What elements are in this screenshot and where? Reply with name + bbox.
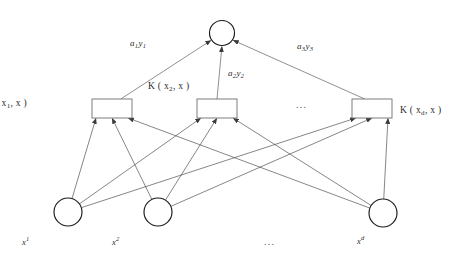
input-node-i3 xyxy=(369,199,397,227)
kernel-box-k2 xyxy=(197,99,237,118)
edge-i3-k1 xyxy=(128,118,369,208)
output-node-circle xyxy=(210,21,235,46)
input-node-group xyxy=(54,198,397,227)
edge-i3-k2 xyxy=(233,118,371,205)
kernel-box-k3 xyxy=(352,99,392,118)
input-node-i2 xyxy=(144,198,172,226)
kernel-layer-ellipsis: ... xyxy=(296,100,307,110)
weight-label-3: a3y3 xyxy=(297,42,313,52)
kernel-network-diagram: K ( x1, x ) K ( x2, x ) K ( xd, x ) ... … xyxy=(0,0,466,260)
edge-i1-k2 xyxy=(79,118,200,204)
edge-k2-output xyxy=(217,47,222,99)
kernel-label-2: K ( x2, x ) xyxy=(148,82,189,93)
kernel-box-k1 xyxy=(92,99,132,118)
weight-label-1: a1y1 xyxy=(130,39,146,49)
input-to-kernel-edges xyxy=(72,118,388,208)
input-label-d: xd xyxy=(357,235,365,245)
edge-i1-k3 xyxy=(81,118,355,208)
kernel-box-group xyxy=(92,99,392,118)
edge-i3-k3 xyxy=(384,119,388,200)
kernel-label-d: K ( xd, x ) xyxy=(400,106,441,117)
input-label-2: x2 xyxy=(112,236,120,246)
edge-i2-k2 xyxy=(165,118,216,200)
edge-i2-k1 xyxy=(112,118,152,199)
edge-i2-k3 xyxy=(171,118,372,206)
output-node-group xyxy=(210,21,235,46)
diagram-canvas xyxy=(0,0,466,260)
edge-i1-k1 xyxy=(72,118,96,198)
weight-label-2: a2y2 xyxy=(228,69,244,79)
input-label-1: x1 xyxy=(22,236,30,246)
input-node-i1 xyxy=(54,198,82,226)
input-layer-ellipsis: ... xyxy=(264,237,275,247)
kernel-label-1: K ( x1, x ) xyxy=(0,99,27,110)
